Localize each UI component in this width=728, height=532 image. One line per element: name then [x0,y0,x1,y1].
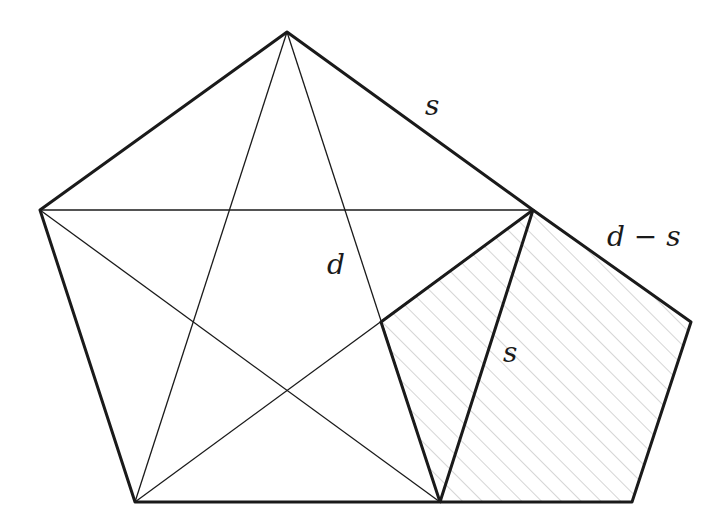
label-top-side-s: s [425,92,439,120]
label-small-side-d-minus-s: d − s [607,223,681,251]
pentagon-diagram [0,0,728,532]
label-diagonal-d: d [327,251,345,279]
hatched-region [381,210,691,502]
label-inner-side-s: s [503,339,517,367]
